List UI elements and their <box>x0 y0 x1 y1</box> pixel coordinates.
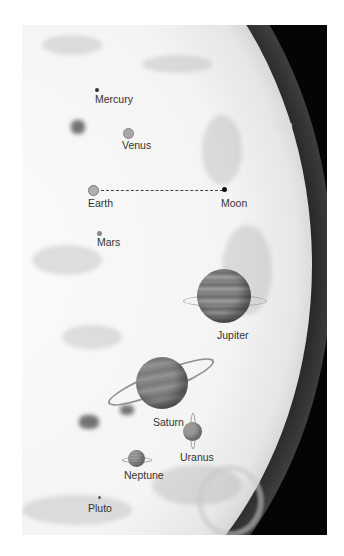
moon-label: Moon <box>221 197 247 209</box>
sun-label: Sun <box>274 119 293 131</box>
sun-texture <box>32 245 102 275</box>
saturn-label: Saturn <box>153 416 184 428</box>
uranus-label: Uranus <box>180 451 214 463</box>
mercury-label: Mercury <box>95 93 133 105</box>
sunspot <box>79 415 99 429</box>
uranus-planet <box>183 422 202 441</box>
sun-texture <box>62 325 122 349</box>
earth-label: Earth <box>88 197 113 209</box>
sun-texture <box>202 115 242 185</box>
neptune-planet <box>128 450 145 467</box>
sunspot <box>120 405 134 415</box>
venus-planet <box>123 128 134 139</box>
pluto-label: Pluto <box>88 502 112 514</box>
solar-prominence <box>197 465 264 535</box>
mars-label: Mars <box>97 236 120 248</box>
earth-moon-distance-line <box>101 190 223 191</box>
earth-planet <box>88 185 99 196</box>
neptune-label: Neptune <box>124 469 164 481</box>
pluto-planet <box>98 496 101 499</box>
mercury-planet <box>95 88 99 92</box>
sun-texture <box>142 55 212 73</box>
saturn-planet <box>136 357 188 409</box>
sun-planets-figure: Sun Mercury Venus Earth Moon Mars Jupite… <box>22 25 327 535</box>
jupiter-planet <box>197 269 251 323</box>
moon-body <box>222 187 227 192</box>
sunspot <box>71 120 85 134</box>
venus-label: Venus <box>122 139 151 151</box>
jupiter-label: Jupiter <box>217 329 249 341</box>
sun-texture <box>42 35 102 55</box>
sun-texture <box>22 495 132 525</box>
